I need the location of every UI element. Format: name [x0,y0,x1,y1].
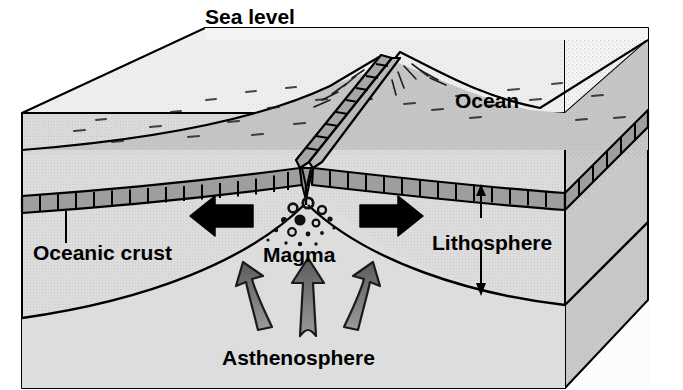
figure-root: Sea level Ocean Oceanic crust Lithospher… [0,0,683,390]
label-magma: Magma [263,243,336,266]
label-asthenosphere: Asthenosphere [222,346,375,369]
label-oceanic-crust: Oceanic crust [33,241,172,264]
block-diagram: Sea level Ocean Oceanic crust Lithospher… [0,0,683,390]
label-lithosphere: Lithosphere [432,231,552,254]
label-ocean: Ocean [455,89,519,112]
label-sea-level: Sea level [205,5,295,28]
